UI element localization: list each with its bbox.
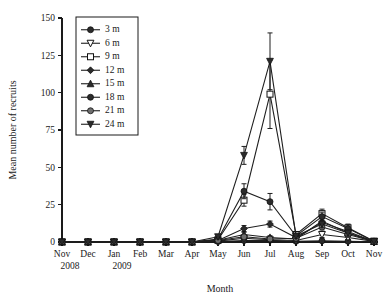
- data-point: [241, 234, 247, 240]
- legend-label: 24 m: [105, 119, 125, 129]
- legend-marker-icon: [88, 27, 94, 33]
- x-tick-label-10: Sep: [315, 249, 330, 259]
- x-axis-title: Month: [207, 283, 234, 294]
- data-point: [319, 214, 325, 220]
- x-tick-label-3: Feb: [133, 249, 148, 259]
- y-tick-label-100: 100: [41, 88, 56, 98]
- legend-label: 12 m: [105, 65, 125, 75]
- data-point: [267, 236, 273, 242]
- x-tick-label-0: Nov: [54, 249, 71, 259]
- legend-marker-icon: [88, 54, 94, 60]
- x-year-label-2009: 2009: [113, 261, 132, 271]
- data-point: [267, 91, 273, 97]
- x-tick-label-4: Mar: [158, 249, 175, 259]
- legend-marker-icon: [88, 94, 94, 100]
- data-point: [267, 58, 274, 65]
- figure-container: 0255075100125150 NovDecJanFebMarAprMayJu…: [0, 0, 388, 298]
- y-tick-label-0: 0: [50, 237, 55, 247]
- x-tick-label-8: Jul: [264, 249, 275, 259]
- recruits-line-chart: 0255075100125150 NovDecJanFebMarAprMayJu…: [0, 0, 388, 298]
- y-tick-label-75: 75: [46, 125, 56, 135]
- x-year-label-2008: 2008: [61, 261, 80, 271]
- legend-label: 15 m: [105, 78, 125, 88]
- x-tick-label-7: Jun: [237, 249, 250, 259]
- x-axis-ticks: NovDecJanFebMarAprMayJunJulAugSepOctNov2…: [54, 242, 383, 271]
- y-axis-title: Mean number of recruits: [7, 80, 18, 179]
- legend-label: 6 m: [105, 38, 120, 48]
- y-tick-label-25: 25: [46, 200, 56, 210]
- legend-label: 9 m: [105, 51, 120, 61]
- legend-marker-icon: [88, 108, 94, 114]
- y-tick-label-50: 50: [46, 163, 56, 173]
- data-point: [241, 188, 247, 194]
- x-tick-label-1: Dec: [80, 249, 95, 259]
- x-tick-label-9: Aug: [288, 249, 305, 259]
- x-tick-label-11: Oct: [341, 249, 355, 259]
- x-tick-label-6: May: [209, 249, 227, 259]
- legend-label: 21 m: [105, 105, 125, 115]
- y-axis-ticks: 0255075100125150: [41, 13, 62, 247]
- y-tick-label-150: 150: [41, 13, 56, 23]
- legend-label: 18 m: [105, 92, 125, 102]
- legend-box: [76, 17, 138, 135]
- y-tick-label-125: 125: [41, 51, 56, 61]
- x-tick-label-5: Apr: [185, 249, 201, 259]
- legend-label: 3 m: [105, 24, 120, 34]
- x-tick-label-12: Nov: [366, 249, 383, 259]
- data-point: [267, 221, 274, 228]
- data-point: [241, 152, 248, 159]
- chart-legend: 3 m6 m9 m12 m15 m18 m21 m24 m: [76, 17, 138, 135]
- data-point: [267, 199, 273, 205]
- x-tick-label-2: Jan: [108, 249, 121, 259]
